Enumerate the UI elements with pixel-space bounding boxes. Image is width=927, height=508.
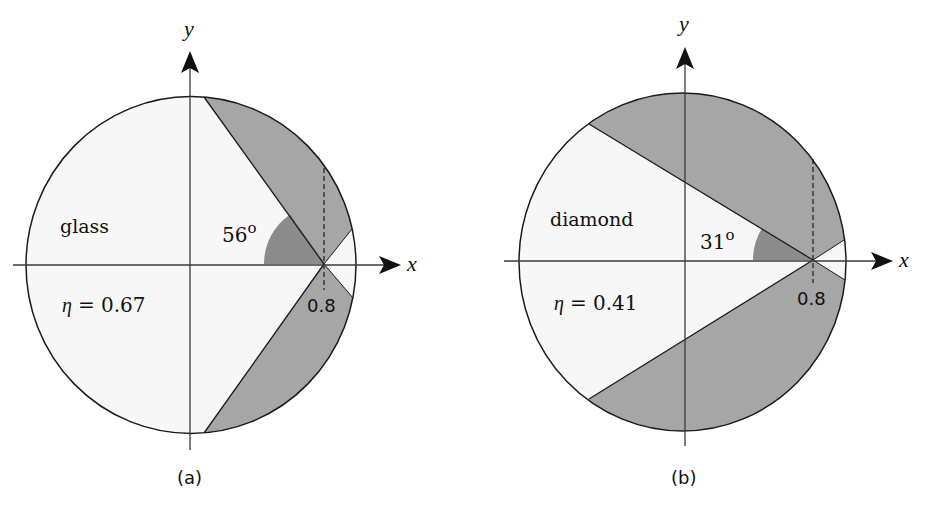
panel-a-glass: y x glass 56o η= 0.67 0.8 (a) — [13, 16, 417, 488]
figure-canvas: y x glass 56o η= 0.67 0.8 (a) y x dia — [0, 0, 927, 508]
source-position-label-b: 0.8 — [797, 288, 826, 309]
y-axis-label-a: y — [182, 16, 194, 41]
material-label-a: glass — [60, 215, 109, 237]
y-axis-label-b: y — [677, 11, 689, 36]
x-axis-label-a: x — [406, 251, 417, 276]
x-axis-label-b: x — [898, 247, 909, 272]
panel-b-diamond: y x diamond 31o η= 0.41 0.8 (b) — [504, 11, 909, 488]
material-label-b: diamond — [550, 208, 633, 230]
caption-b: (b) — [671, 467, 696, 488]
caption-a: (a) — [177, 467, 202, 488]
source-position-label-a: 0.8 — [307, 295, 336, 316]
